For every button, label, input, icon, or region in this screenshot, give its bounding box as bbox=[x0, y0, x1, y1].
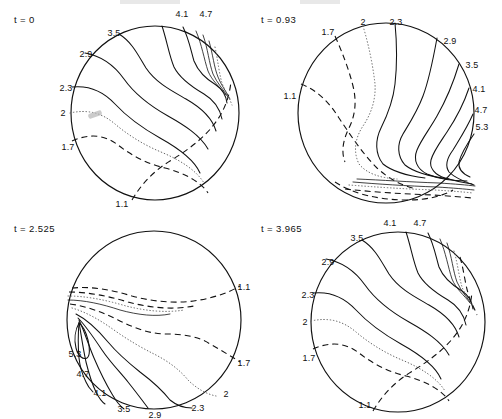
contour-label-2: 2 bbox=[360, 17, 365, 27]
contour-label-2: 2 bbox=[60, 108, 65, 118]
contour-packed-dashed bbox=[460, 257, 477, 315]
contour-5.3 bbox=[459, 134, 474, 177]
contour-2.3 bbox=[72, 87, 200, 173]
domain-boundary bbox=[67, 231, 241, 409]
domain-boundary bbox=[298, 23, 474, 203]
contour-label-4.7: 4.7 bbox=[76, 369, 89, 379]
contour-label-2: 2 bbox=[302, 317, 307, 327]
contour-label-2.3: 2.3 bbox=[59, 83, 72, 93]
contour-label-5.3: 5.3 bbox=[68, 349, 81, 359]
contour-label-4.7: 4.7 bbox=[474, 105, 487, 115]
contour-packed-dashed bbox=[69, 292, 194, 308]
plot-area-t2525 bbox=[66, 230, 242, 410]
contour-packed-a bbox=[196, 31, 226, 95]
contour-label-2.9: 2.9 bbox=[443, 36, 456, 46]
contour-svg-t093 bbox=[297, 22, 475, 204]
contour-label-4.1: 4.1 bbox=[472, 84, 485, 94]
contour-4.1 bbox=[162, 26, 222, 119]
contour-1.7 bbox=[335, 36, 355, 162]
plot-area-t093 bbox=[297, 22, 475, 204]
contour-packed-a bbox=[68, 300, 170, 315]
contour-4.1 bbox=[431, 88, 472, 184]
contour-2.3 bbox=[377, 23, 425, 178]
contour-1.7 bbox=[313, 344, 449, 401]
panel-t3965: t = 3.965 bbox=[251, 209, 502, 419]
contour-1.7 bbox=[70, 304, 240, 362]
panel-title-t2525: t = 2.525 bbox=[14, 223, 55, 234]
contour-label-2.9: 2.9 bbox=[79, 49, 92, 59]
panel-title-t0: t = 0 bbox=[14, 14, 35, 25]
contour-2 bbox=[70, 111, 204, 183]
contour-label-1.1: 1.1 bbox=[283, 91, 296, 101]
contour-svg-t2525 bbox=[66, 230, 242, 410]
contour-1.1 bbox=[72, 286, 240, 302]
contour-label-2.3: 2.3 bbox=[389, 17, 402, 27]
contour-svg-t3965 bbox=[310, 231, 486, 413]
contour-1.7 bbox=[72, 136, 208, 193]
contour-4.1 bbox=[406, 232, 466, 325]
contour-label-3.5: 3.5 bbox=[107, 28, 120, 38]
contour-label-1.7: 1.7 bbox=[61, 142, 74, 152]
contour-label-1.7: 1.7 bbox=[237, 358, 250, 368]
panel-title-t3965: t = 3.965 bbox=[261, 223, 302, 234]
contour-label-2: 2 bbox=[223, 389, 228, 399]
contour-2.9 bbox=[78, 318, 148, 408]
contour-label-2.9: 2.9 bbox=[148, 410, 161, 419]
contour-2.3 bbox=[313, 293, 441, 379]
contour-label-2.3: 2.3 bbox=[301, 290, 314, 300]
contour-packed-b bbox=[357, 179, 475, 186]
domain-boundary bbox=[311, 232, 485, 412]
contour-label-2.3: 2.3 bbox=[191, 403, 204, 413]
contour-2.9 bbox=[326, 259, 449, 355]
contour-label-2.9: 2.9 bbox=[321, 257, 334, 267]
panel-t2525: t = 2.525 bbox=[0, 209, 251, 419]
contour-1.1 bbox=[132, 81, 231, 200]
contour-label-4.7: 4.7 bbox=[413, 218, 426, 228]
contour-2 bbox=[72, 308, 216, 396]
plot-area-t3965 bbox=[310, 231, 486, 413]
contour-label-4.1: 4.1 bbox=[383, 218, 396, 228]
contour-label-4.1: 4.1 bbox=[93, 388, 106, 398]
contour-label-4.7: 4.7 bbox=[199, 9, 212, 19]
contour-label-1.1: 1.1 bbox=[358, 400, 371, 410]
contour-label-5.3: 5.3 bbox=[475, 122, 488, 132]
contour-label-1.7: 1.7 bbox=[302, 353, 315, 363]
contour-label-3.5: 3.5 bbox=[117, 404, 130, 414]
contour-packed-dotted bbox=[68, 296, 184, 311]
contour-label-1.1: 1.1 bbox=[115, 199, 128, 209]
contour-4.7 bbox=[428, 233, 473, 309]
panel-title-t093: t = 0.93 bbox=[261, 14, 296, 25]
contour-label-3.5: 3.5 bbox=[350, 233, 363, 243]
contour-4.7 bbox=[447, 114, 474, 185]
contour-label-1.7: 1.7 bbox=[321, 27, 334, 37]
contour-label-3.5: 3.5 bbox=[465, 60, 478, 70]
contour-label-1.1: 1.1 bbox=[237, 282, 250, 292]
contour-figure: t = 0 bbox=[0, 0, 502, 419]
contour-1.1 bbox=[301, 84, 413, 188]
panel-t0: t = 0 bbox=[0, 0, 251, 210]
contour-label-4.1: 4.1 bbox=[175, 9, 188, 19]
contour-4.7 bbox=[183, 27, 227, 103]
panel-t093: t = 0.93 bbox=[251, 0, 502, 210]
contour-1.1 bbox=[373, 292, 472, 411]
